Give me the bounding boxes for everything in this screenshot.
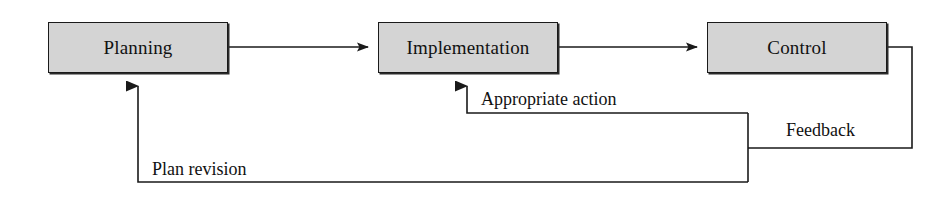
node-implementation[interactable]: Implementation bbox=[378, 22, 558, 73]
edge-label-plan-revision: Plan revision bbox=[152, 159, 247, 180]
node-control[interactable]: Control bbox=[707, 22, 887, 73]
node-implementation-label: Implementation bbox=[406, 37, 529, 59]
edge-label-feedback: Feedback bbox=[786, 120, 855, 141]
node-planning[interactable]: Planning bbox=[48, 22, 228, 73]
edge-label-appropriate-action: Appropriate action bbox=[481, 89, 616, 110]
node-control-label: Control bbox=[767, 37, 826, 59]
node-planning-label: Planning bbox=[103, 37, 172, 59]
flow-diagram: Planning Implementation Control Appropri… bbox=[0, 0, 951, 201]
